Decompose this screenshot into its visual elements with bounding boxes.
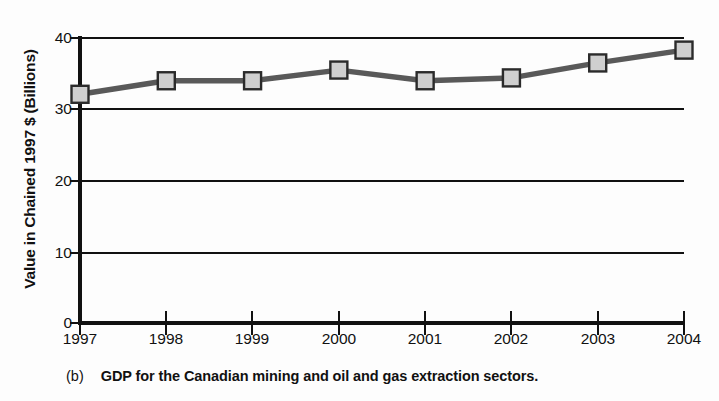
x-tick-label-2000: 2000	[299, 331, 379, 347]
x-tick-label-2003: 2003	[558, 331, 638, 347]
x-tick-label-2001: 2001	[385, 331, 465, 347]
x-tick-label-2004: 2004	[644, 331, 719, 347]
x-tick-label-1997: 1997	[40, 331, 120, 347]
caption-index: (b)	[66, 368, 84, 384]
x-tick-label-1999: 1999	[212, 331, 292, 347]
figure-panel: Value in Chained 1997 $ (Billions) 40 30…	[0, 0, 719, 401]
x-axis-tick-labels: 1997 1998 1999 2000 2001 2002 2003 2004	[0, 0, 719, 401]
x-tick-label-1998: 1998	[126, 331, 206, 347]
x-tick-label-2002: 2002	[471, 331, 551, 347]
caption-text: GDP for the Canadian mining and oil and …	[101, 368, 538, 384]
figure-caption: (b) GDP for the Canadian mining and oil …	[66, 368, 538, 384]
